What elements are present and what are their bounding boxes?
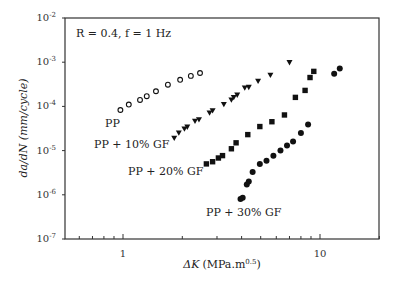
point-pp bbox=[198, 71, 203, 76]
point-pp-20gf bbox=[282, 112, 287, 117]
point-pp-20gf bbox=[293, 95, 298, 100]
point-pp-30gf bbox=[290, 139, 296, 145]
point-pp bbox=[144, 94, 149, 99]
point-pp-30gf bbox=[305, 121, 311, 127]
point-pp-20gf bbox=[220, 153, 225, 158]
point-pp-30gf bbox=[257, 161, 263, 167]
point-pp bbox=[154, 89, 159, 94]
point-pp-10gf bbox=[246, 85, 252, 90]
point-pp-20gf bbox=[229, 146, 234, 151]
point-pp-30gf bbox=[277, 148, 283, 154]
y-axis-label: da/dN (mm/cycle) bbox=[17, 78, 30, 177]
y-tick-label: 10-6 bbox=[36, 188, 56, 200]
point-pp-30gf bbox=[298, 130, 304, 136]
y-tick-label: 10-2 bbox=[36, 11, 56, 23]
label-pp: PP bbox=[105, 117, 120, 130]
point-pp-10gf bbox=[171, 136, 177, 141]
x-tick-label-10: 10 bbox=[314, 248, 327, 259]
label-pp-20gf: PP + 20% GF bbox=[128, 165, 204, 178]
point-pp-10gf bbox=[267, 73, 273, 78]
point-pp-30gf bbox=[331, 71, 337, 77]
point-pp bbox=[188, 73, 193, 78]
condition-annotation: R = 0.4, f = 1 Hz bbox=[76, 27, 171, 40]
point-pp-30gf bbox=[270, 153, 276, 159]
point-pp-10gf bbox=[286, 60, 292, 65]
point-pp-20gf bbox=[269, 119, 274, 124]
point-pp-20gf bbox=[204, 161, 209, 166]
x-axis-label: ΔK(MPa.m0.5) bbox=[182, 258, 261, 271]
data-points bbox=[118, 60, 343, 202]
point-pp-30gf bbox=[246, 178, 252, 184]
point-pp-30gf bbox=[240, 195, 246, 201]
point-pp-30gf bbox=[337, 66, 343, 72]
point-pp-20gf bbox=[245, 132, 250, 137]
point-pp-20gf bbox=[302, 88, 307, 93]
point-pp-30gf bbox=[250, 169, 256, 175]
point-pp-20gf bbox=[311, 69, 316, 74]
point-pp-30gf bbox=[263, 158, 269, 164]
point-pp bbox=[118, 108, 123, 113]
point-pp-10gf bbox=[221, 102, 227, 107]
crack-growth-chart: 10-210-310-410-510-610-7 R = 0.4, f = 1 … bbox=[0, 0, 395, 282]
point-pp-10gf bbox=[192, 119, 198, 124]
point-pp-30gf bbox=[284, 143, 290, 149]
point-pp-20gf bbox=[210, 159, 215, 164]
point-pp bbox=[165, 82, 170, 87]
x-axis-ticks bbox=[79, 234, 379, 239]
label-pp-30gf: PP + 30% GF bbox=[206, 206, 282, 219]
y-tick-label: 10-4 bbox=[36, 99, 56, 111]
point-pp-20gf bbox=[233, 140, 238, 145]
y-tick-label: 10-5 bbox=[36, 144, 56, 156]
point-pp-20gf bbox=[257, 124, 262, 129]
y-tick-label: 10-3 bbox=[36, 55, 56, 67]
point-pp-10gf bbox=[176, 131, 182, 136]
y-tick-label: 10-7 bbox=[36, 232, 56, 244]
x-tick-label-1: 1 bbox=[120, 248, 126, 259]
point-pp bbox=[126, 102, 131, 107]
label-pp-10gf: PP + 10% GF bbox=[94, 138, 170, 151]
point-pp-10gf bbox=[255, 79, 261, 84]
point-pp bbox=[178, 77, 183, 82]
point-pp bbox=[138, 98, 143, 103]
y-axis-ticks: 10-210-310-410-510-610-7 bbox=[36, 11, 65, 244]
point-pp-20gf bbox=[307, 75, 312, 80]
